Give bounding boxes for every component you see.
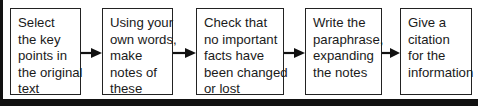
step-box-select-key-points: Select the key points in the original te… xyxy=(10,8,81,95)
arrow-right-icon xyxy=(284,47,305,59)
arrow-right-icon xyxy=(382,47,400,59)
step-text-line: or lost xyxy=(204,81,283,98)
step-text-line: no important xyxy=(204,32,283,49)
step-text-line: paraphrase, xyxy=(313,32,381,49)
step-text-line: the notes xyxy=(313,65,381,82)
step-text-line: facts have xyxy=(204,48,283,65)
step-text-line: information xyxy=(408,65,471,82)
frame-bottom-border xyxy=(0,99,478,106)
step-box-give-citation: Give a citation for the information xyxy=(400,8,472,95)
step-text-line: Write the xyxy=(313,15,381,32)
step-text-line: make xyxy=(110,48,172,65)
step-text-line: text xyxy=(18,81,80,98)
step-text-line: own words, xyxy=(110,32,172,49)
step-text-line: the key xyxy=(18,32,80,49)
step-text-line: Give a xyxy=(408,15,471,32)
step-text-line: for the xyxy=(408,48,471,65)
arrow-right-icon xyxy=(81,47,102,59)
frame-left-border xyxy=(0,0,3,106)
step-text-line: the original xyxy=(18,65,80,82)
step-box-make-notes: Using your own words, make notes of thes… xyxy=(102,8,173,95)
step-text-line: Using your xyxy=(110,15,172,32)
step-box-check-facts: Check that no important facts have been … xyxy=(196,8,284,95)
step-text-line: expanding xyxy=(313,48,381,65)
step-text-line: Select xyxy=(18,15,80,32)
step-text-line: these xyxy=(110,81,172,98)
step-text-line: notes of xyxy=(110,65,172,82)
step-text-line: Check that xyxy=(204,15,283,32)
step-text-line: points in xyxy=(18,48,80,65)
step-text-line: been changed xyxy=(204,65,283,82)
step-box-write-paraphrase: Write the paraphrase, expanding the note… xyxy=(305,8,382,95)
arrow-right-icon xyxy=(173,47,196,59)
step-text-line: citation xyxy=(408,32,471,49)
